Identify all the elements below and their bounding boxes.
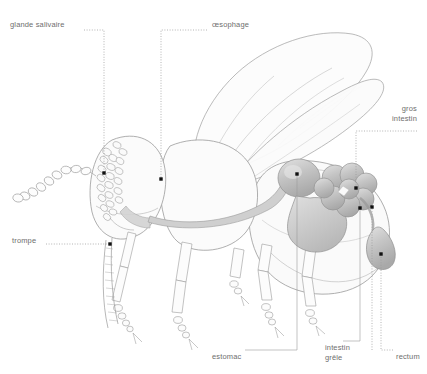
label-gros-intestin: gros intestin xyxy=(392,104,417,123)
marker-glande-salivaire xyxy=(102,171,105,174)
label-intestin-grele: intestin grêle xyxy=(325,343,350,362)
marker-trompe xyxy=(108,242,111,245)
marker-rectum xyxy=(379,252,382,255)
label-glande-salivaire: glande salivaire xyxy=(10,20,65,30)
label-trompe: trompe xyxy=(12,236,36,246)
marker-oesophage xyxy=(159,177,162,180)
bee-illustration xyxy=(0,0,427,374)
bee-anatomy-figure: glande salivaireœsophagegros intestintro… xyxy=(0,0,427,374)
antenna xyxy=(12,165,96,203)
label-estomac: estomac xyxy=(212,352,241,362)
label-rectum: rectum xyxy=(396,352,420,362)
marker-rectum-upper-link xyxy=(370,205,373,208)
crop-estomac xyxy=(278,159,320,197)
marker-gros-intestin xyxy=(354,186,357,189)
label-oesophage: œsophage xyxy=(212,20,249,30)
marker-estomac xyxy=(295,172,298,175)
marker-intestin-grele xyxy=(358,206,361,209)
